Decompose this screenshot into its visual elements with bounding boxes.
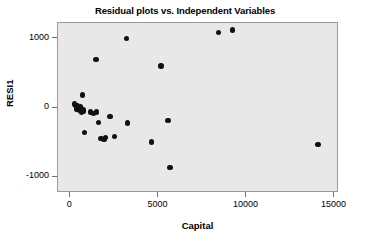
x-axis-tick-label: 10000: [233, 199, 258, 209]
y-axis-tick-label: -1000: [26, 170, 49, 180]
plot-panel: [57, 22, 338, 192]
x-axis-tick-label: 5000: [147, 199, 167, 209]
scatter-point: [107, 114, 112, 119]
x-axis-tick-label: 15000: [321, 199, 346, 209]
scatter-point: [230, 27, 235, 32]
x-axis-tick-label: 0: [67, 199, 72, 209]
scatter-point: [96, 120, 101, 125]
x-axis: Capital 050001000015000: [0, 192, 370, 243]
x-axis-tick-mark: [157, 192, 158, 197]
x-axis-title: Capital: [57, 220, 338, 231]
scatter-point: [103, 135, 108, 140]
x-axis-tick-mark: [69, 192, 70, 197]
scatter-point: [112, 134, 117, 139]
residual-scatter-figure: Residual plots vs. Independent Variables…: [0, 0, 370, 243]
scatter-point: [165, 118, 170, 123]
scatter-points-layer: [58, 23, 337, 191]
scatter-point: [125, 120, 130, 125]
scatter-point: [315, 142, 320, 147]
scatter-point: [149, 139, 154, 144]
y-axis-title: RESI1: [4, 80, 15, 107]
y-axis-tick-mark: [52, 37, 57, 38]
y-axis-tick-mark: [52, 107, 57, 108]
scatter-point: [216, 30, 221, 35]
scatter-point: [167, 165, 172, 170]
y-axis-tick-label: 0: [44, 101, 49, 111]
y-axis-tick-mark: [52, 176, 57, 177]
scatter-point: [82, 130, 87, 135]
scatter-point: [94, 109, 99, 114]
scatter-point: [93, 57, 98, 62]
scatter-point: [124, 36, 129, 41]
y-axis-tick-label: 1000: [29, 32, 49, 42]
scatter-point: [158, 63, 163, 68]
scatter-point: [80, 92, 85, 97]
x-axis-tick-mark: [333, 192, 334, 197]
x-axis-tick-mark: [245, 192, 246, 197]
